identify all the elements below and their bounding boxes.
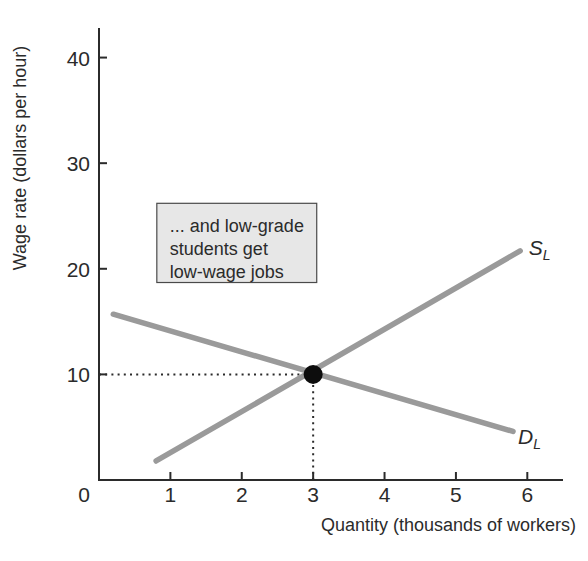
- x-axis-tick-label: 5: [450, 483, 462, 506]
- x-axis-tick-label: 0: [78, 483, 90, 506]
- x-axis-tick-label: 3: [307, 483, 319, 506]
- y-axis-tick-label: 30: [67, 152, 90, 175]
- y-axis-label: Wage rate (dollars per hour): [10, 46, 30, 270]
- x-axis-tick-label: 1: [165, 483, 177, 506]
- y-axis-tick-label: 40: [67, 47, 90, 70]
- x-axis-tick-label: 6: [521, 483, 533, 506]
- x-axis-tick-label: 4: [379, 483, 391, 506]
- equilibrium-point: [304, 365, 323, 384]
- y-axis-tick-label: 20: [67, 258, 90, 281]
- x-axis-label: Quantity (thousands of workers): [321, 515, 576, 535]
- figure-page: ... and low-gradestudents getlow-wage jo…: [0, 0, 588, 561]
- x-axis-tick-label: 2: [236, 483, 248, 506]
- supply-demand-chart: ... and low-gradestudents getlow-wage jo…: [0, 0, 588, 561]
- y-axis-tick-label: 10: [67, 363, 90, 386]
